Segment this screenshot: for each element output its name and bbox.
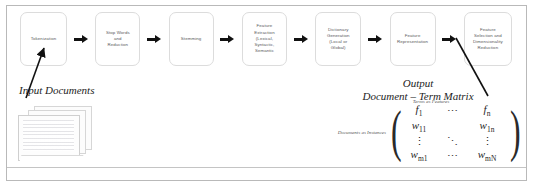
right-arrow-icon bbox=[220, 34, 235, 44]
open-paren-glyph: ( bbox=[391, 100, 396, 162]
right-arrow-icon bbox=[294, 34, 309, 44]
pipeline-stage-stemming[interactable]: Stemming bbox=[169, 12, 214, 66]
pipeline-row: Tokenization Stop Words and Reduction St… bbox=[20, 11, 512, 67]
stage-label: Feature Extraction (Lexical, Syntactic, … bbox=[254, 23, 275, 54]
right-arrow-icon bbox=[368, 34, 383, 44]
figure-canvas: Tokenization Stop Words and Reduction St… bbox=[0, 0, 533, 187]
pipeline-stage-dictionary-generation[interactable]: Dictionary Generation (Local or Global) bbox=[315, 12, 361, 66]
matrix-cell-hdots: ⋯ bbox=[447, 105, 459, 118]
matrix-close-bracket: ) bbox=[508, 103, 517, 164]
matrix-cell-vdots-right: ⋮ bbox=[482, 135, 493, 148]
right-arrow-icon bbox=[147, 34, 162, 44]
pipeline-stage-feature-extraction[interactable]: Feature Extraction (Lexical, Syntactic, … bbox=[242, 12, 287, 66]
stage-label: Feature Representation bbox=[397, 33, 428, 45]
matrix-cell-ddots: ⋱ bbox=[447, 135, 459, 148]
right-arrow-icon bbox=[74, 34, 89, 44]
matrix-cell-fn: fn bbox=[484, 103, 491, 118]
input-documents-label: Input Documents bbox=[19, 84, 94, 96]
stage-label: Stop Words and Reduction bbox=[106, 30, 130, 49]
close-paren-glyph: ) bbox=[510, 100, 515, 162]
document-fold bbox=[18, 155, 83, 167]
document-stack-icon bbox=[12, 104, 98, 166]
matrix-cell-w1n: w1n bbox=[480, 119, 495, 134]
document-term-matrix: ( f1 ⋯ fn w11 w1n ⋮ ⋱ ⋮ bbox=[389, 103, 517, 164]
matrix-cell-wm1: wm1 bbox=[411, 148, 428, 163]
matrix-grid: f1 ⋯ fn w11 w1n ⋮ ⋱ ⋮ wm1 ⋯ w bbox=[398, 103, 508, 164]
matrix-cell-wmN: wmN bbox=[478, 148, 497, 163]
figure-baseline bbox=[7, 167, 526, 168]
stage-label: Dictionary Generation (Local or Global) bbox=[327, 27, 350, 52]
stage-label: Stemming bbox=[181, 36, 202, 42]
matrix-rows-label: Documents as Instances bbox=[300, 130, 386, 135]
pipeline-stage-stop-words[interactable]: Stop Words and Reduction bbox=[95, 12, 140, 66]
matrix-cell-f1: f1 bbox=[416, 103, 423, 118]
matrix-cell-w11: w11 bbox=[412, 119, 427, 134]
matrix-cell-hdots-bottom: ⋯ bbox=[447, 150, 459, 163]
matrix-open-bracket: ( bbox=[389, 103, 398, 164]
document-text-lines bbox=[23, 120, 74, 151]
matrix-cell-vdots-left: ⋮ bbox=[414, 135, 425, 148]
pipeline-stage-feature-representation[interactable]: Feature Representation bbox=[390, 12, 436, 66]
